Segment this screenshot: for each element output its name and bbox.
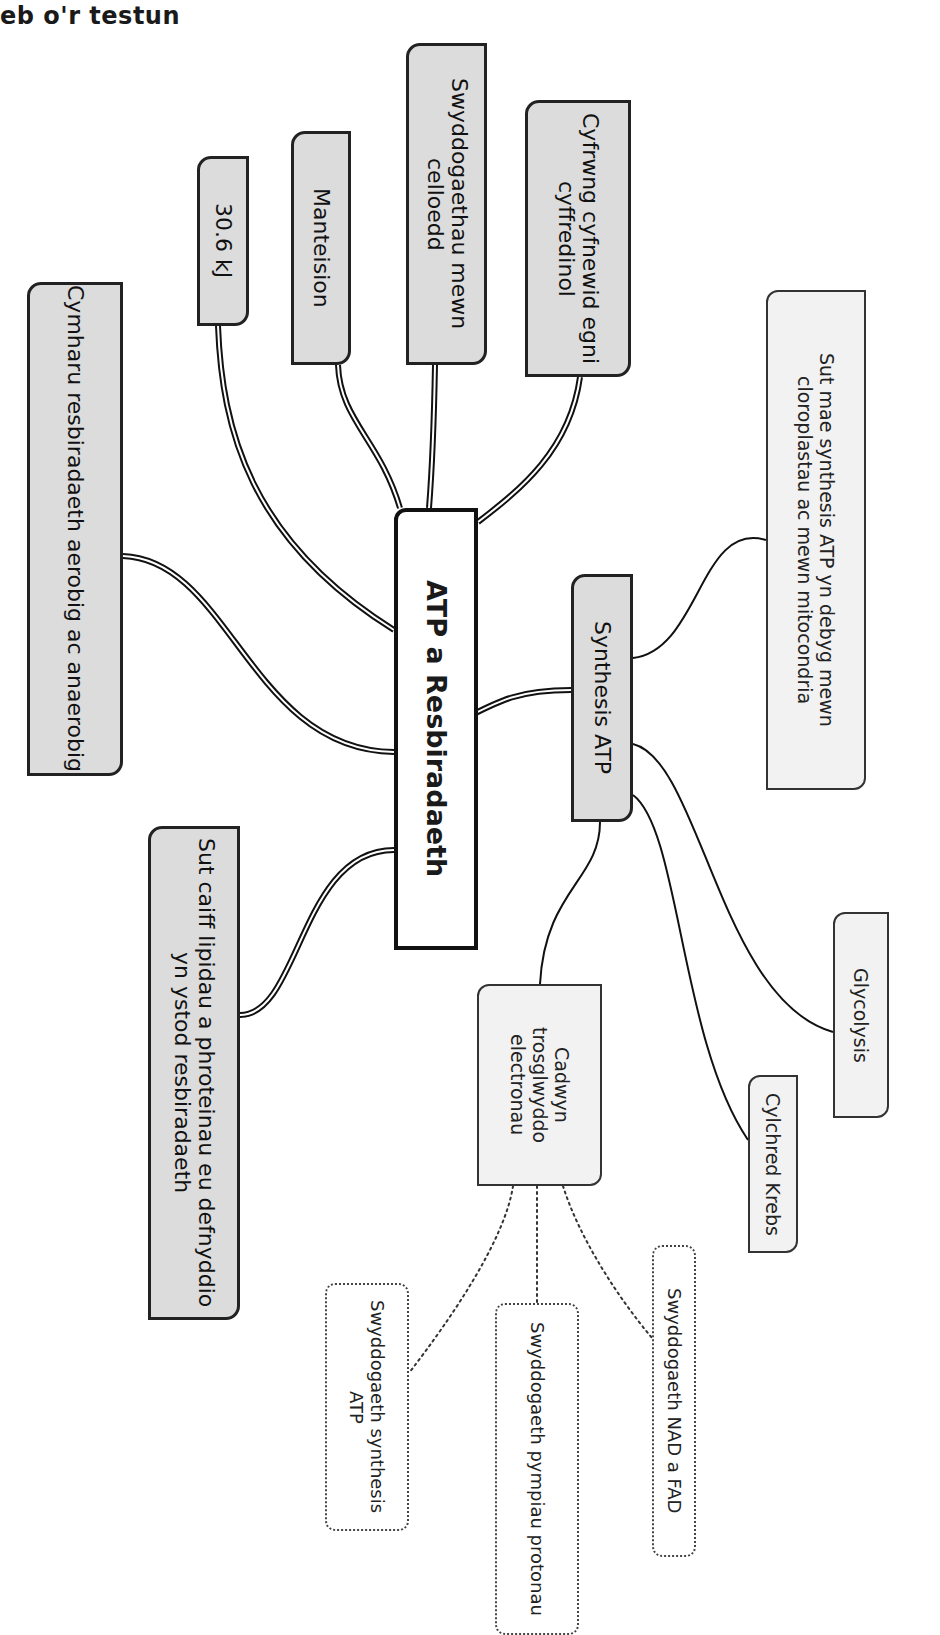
node-sut-caiff-lipidau[interactable]: Sut caiff lipidau a phroteinau eu defnyd… [148, 826, 240, 1320]
node-label: Sut caiff lipidau a phroteinau eu defnyd… [170, 829, 218, 1317]
node-label: Cylchred Krebs [762, 1093, 784, 1236]
central-node[interactable]: ATP a Resbiradaeth [394, 508, 478, 950]
node-label: Cymharu resbiradaeth aerobig ac anaerobi… [63, 285, 87, 772]
connector [123, 556, 394, 752]
connector [633, 795, 748, 1140]
node-swyddogaeth-synthesis[interactable]: Swyddogaeth synthesis ATP [325, 1283, 409, 1531]
node-glycolysis[interactable]: Glycolysis [833, 912, 889, 1118]
node-label: Cyfrwng cyfnewid egni cyffredinol [554, 103, 602, 374]
node-manteision[interactable]: Manteision [291, 131, 351, 365]
node-sut-mae-synthesis[interactable]: Sut mae synthesis ATP yn debyg mewn clor… [766, 290, 866, 790]
node-label: 30.6 kJ [211, 203, 235, 278]
node-swyddogaeth-pympiau[interactable]: Swyddogaeth pympiau protonau [495, 1303, 579, 1635]
node-label: Swyddogaethau mewn celloedd [423, 46, 471, 362]
node-label: Sut mae synthesis ATP yn debyg mewn clor… [794, 292, 838, 788]
node-label: Swyddogaeth NAD a FAD [664, 1288, 685, 1513]
connector [123, 556, 394, 752]
node-cyfrwng[interactable]: Cyfrwng cyfnewid egni cyffredinol [525, 100, 631, 377]
node-label: Swyddogaeth synthesis ATP [346, 1285, 388, 1529]
connector [218, 326, 394, 630]
connector [462, 690, 571, 720]
connector [338, 365, 400, 508]
node-cylchred-krebs[interactable]: Cylchred Krebs [748, 1075, 798, 1253]
node-label: Cadwyn trosglwyddo electronau [507, 986, 573, 1184]
node-swyddogaeth-nad-fad[interactable]: Swyddogaeth NAD a FAD [652, 1245, 696, 1557]
node-label: Swyddogaeth pympiau protonau [527, 1322, 548, 1616]
connector [478, 377, 580, 522]
connector [540, 822, 600, 984]
node-label: Manteision [309, 188, 333, 308]
node-label: Glycolysis [850, 968, 872, 1063]
connector [218, 326, 394, 630]
node-synthesis-atp[interactable]: Synthesis ATP [571, 574, 633, 822]
node-30-6-kj[interactable]: 30.6 kJ [197, 156, 249, 326]
node-cymharu[interactable]: Cymharu resbiradaeth aerobig ac anaerobi… [27, 282, 123, 776]
connector [633, 538, 766, 658]
central-node-label: ATP a Resbiradaeth [420, 580, 452, 877]
node-cadwyn[interactable]: Cadwyn trosglwyddo electronau [477, 984, 602, 1186]
connector [240, 850, 394, 1015]
node-label: Synthesis ATP [590, 621, 614, 774]
connector [240, 850, 394, 1015]
connector [478, 377, 580, 522]
node-swyddogaethau[interactable]: Swyddogaethau mewn celloedd [406, 43, 487, 365]
